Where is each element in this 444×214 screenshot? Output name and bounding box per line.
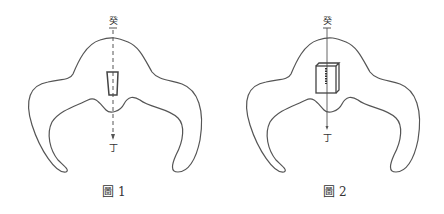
figure-2: 癸 丁 圖 2 <box>247 15 420 199</box>
figure-2-top-label: 癸 <box>323 15 332 26</box>
diagram-canvas: 癸 丁 圖 1 癸 丁 圖 2 <box>0 0 444 214</box>
figure-2-caption: 圖 2 <box>323 185 346 199</box>
figure-2-bottom-label: 丁 <box>323 133 332 143</box>
figure-1-top-label: 癸 <box>109 15 118 26</box>
figure-1-caption: 圖 1 <box>102 185 125 199</box>
figure-2-outline <box>247 38 420 172</box>
figure-2-marker-box <box>316 63 339 93</box>
figure-1: 癸 丁 圖 1 <box>29 15 202 199</box>
figure-1-axis-arrowhead <box>111 134 115 140</box>
figure-2-axis-arrowhead <box>326 126 329 130</box>
figure-1-bottom-label: 丁 <box>109 143 118 153</box>
